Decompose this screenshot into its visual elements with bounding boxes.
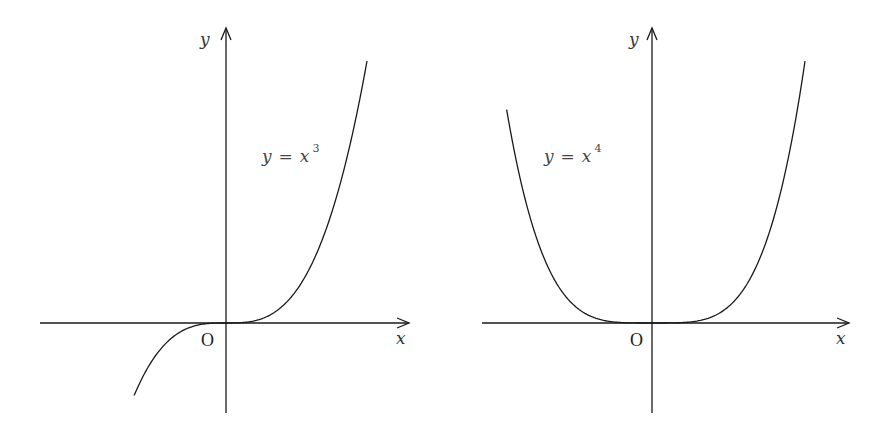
y-axis-label: y <box>200 31 210 48</box>
cubic-graph <box>40 28 409 413</box>
function-graphs-canvas <box>0 0 884 443</box>
quartic-equation-label: y=x4 <box>544 146 601 165</box>
quartic-graph <box>482 28 849 413</box>
cubic-equation-label: y=x3 <box>262 146 319 165</box>
origin-label: O <box>201 331 214 349</box>
quartic-curve <box>507 61 805 323</box>
y-axis-label: y <box>629 31 639 48</box>
cubic-curve <box>134 61 367 396</box>
x-axis-label: x <box>396 330 406 347</box>
x-axis-label: x <box>836 330 846 347</box>
origin-label: O <box>630 331 643 349</box>
